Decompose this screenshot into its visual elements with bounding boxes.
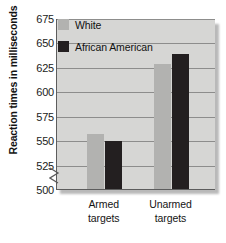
gridline-625 (57, 68, 215, 69)
x-category-unarmed-line1: Unarmed (130, 197, 210, 211)
legend-label-african-american: African American (75, 41, 153, 53)
axis-break-zigzag-icon (49, 166, 65, 184)
legend-item-white: White (58, 17, 178, 32)
legend-label-white: White (75, 19, 101, 31)
gridline-550 (57, 141, 215, 142)
x-category-unarmed-line2: targets (130, 211, 210, 225)
legend-swatch-african-american-icon (58, 41, 69, 52)
y-tick-650: 650 (24, 38, 54, 49)
gridline-600 (57, 92, 215, 93)
bar-chart-figure: Reaction times in milliseconds 675 650 6… (0, 0, 226, 243)
x-category-unarmed-targets: Unarmed targets (130, 197, 210, 225)
gridline-525 (57, 166, 215, 167)
chart-legend: White African American (58, 17, 178, 61)
y-tick-500: 500 (24, 185, 54, 196)
y-tick-625: 625 (24, 63, 54, 74)
x-axis-category-labels: Armed targets Unarmed targets (56, 197, 215, 241)
y-tick-675: 675 (24, 14, 54, 25)
legend-item-african-american: African American (58, 39, 178, 54)
gridline-575 (57, 117, 215, 118)
legend-swatch-white-icon (58, 19, 69, 30)
bar-african-american-unarmed (172, 54, 189, 189)
y-tick-550: 550 (24, 136, 54, 147)
bar-white-armed (87, 134, 104, 189)
y-tick-575: 575 (24, 112, 54, 123)
bar-white-unarmed (154, 64, 171, 189)
y-axis-title: Reaction times in milliseconds (5, 0, 21, 165)
bar-african-american-armed (105, 141, 122, 189)
y-tick-600: 600 (24, 87, 54, 98)
